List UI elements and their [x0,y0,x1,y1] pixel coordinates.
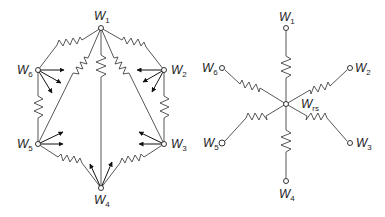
node-w6 [36,68,41,73]
label-w5-right: W5 [203,137,219,152]
label-w2-right: W2 [355,62,371,77]
node-w4 [99,186,104,191]
label-w5-left: W5 [17,138,33,153]
label-wrs: Wrs [301,98,319,113]
label-w6-right: W6 [202,62,218,77]
node-w6-star [220,66,225,71]
node-w2 [162,68,167,73]
node-w1 [99,26,104,31]
node-w3 [162,142,167,147]
node-w5 [36,142,41,147]
resistor-wrs-w6 [225,70,286,104]
label-w4-left: W4 [94,194,110,209]
resistor-w2-w3 [160,70,169,144]
label-w3-left: W3 [171,138,187,153]
resistor-wrs-w1 [281,31,291,104]
resistor-w1-w4 [96,28,106,188]
resistor-w1-w3 [101,28,164,144]
node-w4-star [284,179,289,184]
resistor-w6-w5 [34,70,43,144]
diagram-canvas [0,0,385,217]
label-w4-right: W4 [279,188,295,203]
node-w1-star [284,26,289,31]
label-w3-right: W3 [356,137,372,152]
node-w5-star [219,140,225,146]
left-network [34,28,169,188]
label-w1-right: W1 [279,11,295,26]
node-w2-star [348,66,353,71]
node-wrs [284,102,289,107]
node-w3-star [348,141,353,146]
label-w1-left: W1 [94,10,110,25]
resistor-w5-w4 [38,144,101,188]
resistor-wrs-w5 [225,104,286,141]
label-w2-left: W2 [171,64,187,79]
label-w6-left: W6 [17,64,33,79]
resistor-wrs-w4 [281,104,291,178]
